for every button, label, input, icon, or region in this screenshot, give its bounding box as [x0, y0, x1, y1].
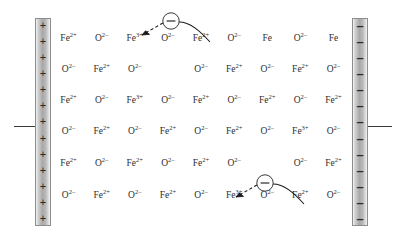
ion-charge: 2–	[168, 93, 175, 100]
ion-charge: 2–	[201, 124, 208, 131]
minus-sign-icon: –	[356, 166, 363, 175]
ion-label: O2–	[184, 189, 217, 207]
ion-label: Fe	[251, 32, 284, 50]
ion-charge: 2–	[334, 188, 341, 195]
ion-charge: 2–	[102, 156, 109, 163]
plus-sign-icon: +	[40, 134, 46, 143]
ion-charge: 2+	[136, 156, 143, 163]
ion-label: Fe2+	[52, 94, 85, 112]
electron-hop-annotation-1	[120, 4, 230, 46]
plus-sign-icon: +	[40, 85, 46, 94]
minus-sign-icon: –	[356, 69, 363, 78]
ion-label: Fe2+	[184, 94, 217, 112]
diagram-canvas: +++++++++++++ ––––––––––––– Fe2+O2–Fe3+O…	[0, 0, 397, 242]
ion-label: Fe2+	[317, 94, 350, 112]
ion-charge: 2–	[267, 62, 274, 69]
ion-label: Fe2+	[151, 125, 184, 143]
ion-charge: 2–	[234, 31, 241, 38]
ion-label: O2–	[151, 94, 184, 112]
ion-charge: 2+	[202, 156, 209, 163]
ion-label: Fe3+	[284, 125, 317, 143]
ion-charge: 2+	[235, 124, 242, 131]
plus-sign-icon: +	[40, 69, 46, 78]
positive-lead-wire	[14, 126, 37, 127]
ion-label: O2–	[251, 63, 284, 81]
ion-charge: 2–	[301, 156, 308, 163]
ion-label: O2–	[184, 63, 217, 81]
ion-charge: 2–	[69, 62, 76, 69]
ion-label: O2–	[151, 157, 184, 175]
ion-charge: 2–	[334, 62, 341, 69]
plus-sign-icon: +	[40, 198, 46, 207]
ion-charge: 2–	[69, 188, 76, 195]
minus-sign-icon: –	[356, 198, 363, 207]
ion-label: Fe2+	[218, 125, 251, 143]
ion-label: O2–	[184, 125, 217, 143]
ion-charge: 2+	[70, 93, 77, 100]
ion-charge: 2–	[301, 93, 308, 100]
plus-sign-icon: +	[40, 37, 46, 46]
lattice-row: O2–Fe2+O2–O2–Fe2+O2–Fe2+O2–	[52, 63, 350, 81]
ion-label: O2–	[118, 125, 151, 143]
positive-electrode: +++++++++++++	[35, 18, 51, 226]
ion-label: O2–	[52, 189, 85, 207]
ion-label: Fe2+	[85, 63, 118, 81]
plus-sign-icon: +	[40, 150, 46, 159]
plus-sign-icon: +	[40, 101, 46, 110]
ion-charge: 2–	[102, 93, 109, 100]
ion-charge: 2+	[70, 31, 77, 38]
ion-charge: 2–	[201, 188, 208, 195]
minus-sign-icon: –	[356, 53, 363, 62]
ion-charge: 2+	[103, 188, 110, 195]
ion-charge: 2–	[234, 93, 241, 100]
ion-label: Fe2+	[184, 157, 217, 175]
ion-label: O2–	[85, 32, 118, 50]
negative-electrode: –––––––––––––	[352, 18, 368, 226]
ion-label: Fe2+	[251, 94, 284, 112]
ion-charge: 2–	[102, 31, 109, 38]
ion-label: Fe3+	[118, 94, 151, 112]
ion-charge: 2–	[135, 124, 142, 131]
ion-label: O2–	[317, 63, 350, 81]
ion-charge: 2+	[103, 124, 110, 131]
ion-label: Fe2+	[284, 63, 317, 81]
ion-label: O2–	[251, 125, 284, 143]
ion-charge: 2+	[169, 124, 176, 131]
minus-sign-icon: –	[356, 214, 363, 223]
lattice-row: O2–Fe2+O2–Fe2+O2–Fe2+O2–Fe3+O2–	[52, 125, 350, 143]
ion-label: Fe2+	[118, 157, 151, 175]
ion-charge: 2–	[234, 156, 241, 163]
ion-label: O2–	[118, 189, 151, 207]
ion-label: O2–	[317, 125, 350, 143]
lattice-row: Fe2+O2–Fe3+O2–Fe2+O2–Fe2+O2–Fe2+	[52, 94, 350, 112]
minus-sign-icon: –	[356, 21, 363, 30]
ion-label: Fe2+	[52, 32, 85, 50]
ion-charge: 2–	[267, 124, 274, 131]
ion-charge: 2–	[69, 124, 76, 131]
ion-charge: 2+	[70, 156, 77, 163]
minus-sign-icon: –	[356, 117, 363, 126]
electron-hop-annotation-2	[214, 166, 324, 208]
minus-sign-icon: –	[356, 150, 363, 159]
minus-sign-icon: –	[356, 134, 363, 143]
ion-charge: 2+	[103, 62, 110, 69]
plus-sign-icon: +	[40, 117, 46, 126]
plus-sign-icon: +	[40, 214, 46, 223]
ion-label: O2–	[52, 125, 85, 143]
minus-sign-icon: –	[356, 85, 363, 94]
ion-charge: 2+	[335, 156, 342, 163]
minus-sign-icon: –	[356, 182, 363, 191]
plus-sign-icon: +	[40, 21, 46, 30]
ion-label: Fe2+	[85, 189, 118, 207]
ion-label: O2–	[52, 63, 85, 81]
negative-lead-wire	[366, 126, 392, 127]
ion-charge: 2–	[334, 124, 341, 131]
ion-charge: 2+	[335, 93, 342, 100]
ion-label: O2–	[284, 94, 317, 112]
ion-charge: 2–	[201, 62, 208, 69]
ion-label: O2–	[118, 63, 151, 81]
ion-charge: 2+	[302, 62, 309, 69]
plus-sign-icon: +	[40, 53, 46, 62]
ion-label: O2–	[85, 157, 118, 175]
minus-sign-icon: –	[356, 37, 363, 46]
